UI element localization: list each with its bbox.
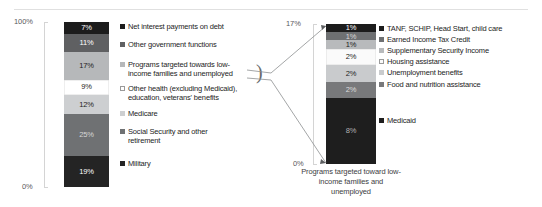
- breakout-connector-lines: [0, 0, 542, 207]
